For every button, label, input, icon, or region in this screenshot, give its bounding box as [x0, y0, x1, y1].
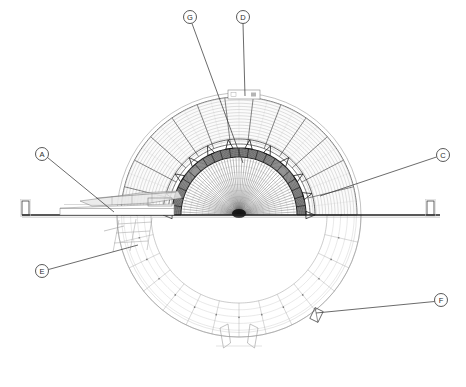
- lower-ring-structure: [117, 214, 361, 348]
- callout-label-e: E: [39, 267, 44, 276]
- callout-label-g: G: [187, 13, 193, 22]
- callout-label-f: F: [439, 296, 444, 305]
- section-drawing-canvas: GDACEF: [0, 0, 466, 387]
- callout-a[interactable]: A: [36, 148, 115, 213]
- callout-leader-line: [316, 302, 435, 314]
- callout-d[interactable]: D: [237, 11, 250, 97]
- left-canopy-platform: [60, 191, 182, 252]
- technical-drawing-viewport: GDACEF: [0, 0, 466, 387]
- callout-f[interactable]: F: [316, 294, 448, 314]
- callout-label-a: A: [39, 150, 44, 159]
- callout-e[interactable]: E: [36, 245, 139, 278]
- callout-label-c: C: [440, 151, 446, 160]
- callout-leader-line: [48, 158, 115, 213]
- callout-markers: GDACEF: [36, 11, 450, 314]
- callout-label-d: D: [240, 13, 246, 22]
- callout-leader-line: [243, 24, 245, 97]
